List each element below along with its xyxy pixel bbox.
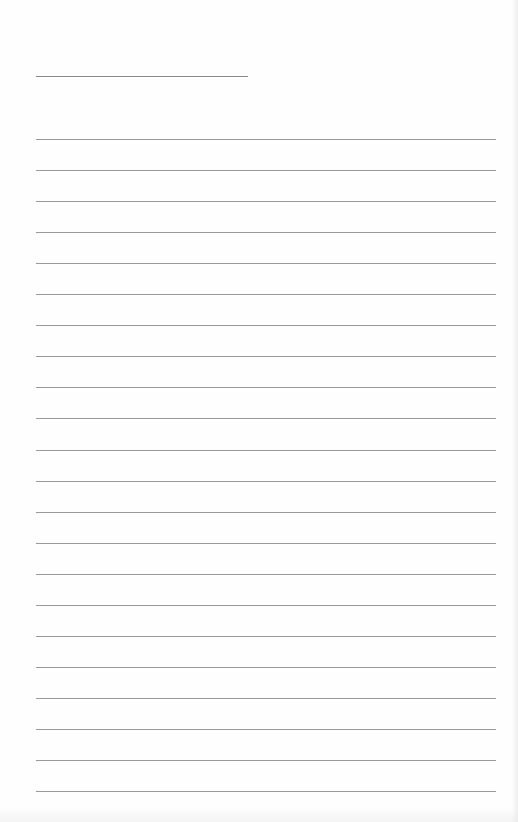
ruled-line [36, 698, 496, 699]
ruled-line [36, 791, 496, 792]
ruled-line [36, 481, 496, 482]
ruled-line [36, 325, 496, 326]
ruled-line [36, 450, 496, 451]
ruled-line [36, 729, 496, 730]
ruled-line [36, 356, 496, 357]
name-line [36, 76, 248, 77]
ruled-line [36, 387, 496, 388]
ruled-line [36, 543, 496, 544]
ruled-line [36, 294, 496, 295]
ruled-line [36, 760, 496, 761]
ruled-line [36, 170, 496, 171]
page-bottom-shadow [0, 808, 518, 822]
ruled-line [36, 232, 496, 233]
ruled-line [36, 201, 496, 202]
ruled-line [36, 139, 496, 140]
ruled-line [36, 574, 496, 575]
ruled-line [36, 605, 496, 606]
page-edge-shadow [512, 0, 518, 822]
ruled-line [36, 636, 496, 637]
ruled-line [36, 263, 496, 264]
ruled-line [36, 667, 496, 668]
ruled-line [36, 512, 496, 513]
lined-page [0, 0, 518, 822]
ruled-line [36, 418, 496, 419]
